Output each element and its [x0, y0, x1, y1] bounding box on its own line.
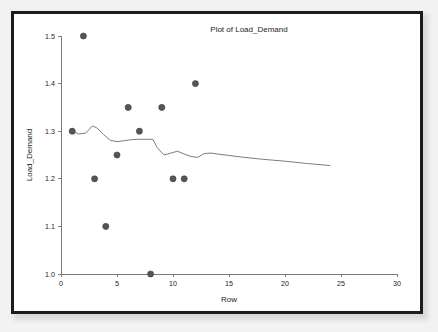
- data-point-marker: [103, 223, 109, 229]
- x-tick-label: 15: [225, 279, 233, 288]
- y-tick-label: 1.2: [45, 174, 55, 183]
- data-point-marker: [136, 128, 142, 134]
- x-axis-title: Row: [221, 295, 237, 304]
- x-axis-title-group: Row: [221, 295, 237, 304]
- page-root: Plot of Load_Demand 1.01.11.21.31.41.5 0…: [0, 0, 438, 332]
- x-tick-label: 5: [115, 279, 119, 288]
- data-point-marker: [148, 271, 154, 277]
- chart-frame: Plot of Load_Demand 1.01.11.21.31.41.5 0…: [11, 11, 423, 314]
- x-tick-group: 051015202530: [59, 274, 401, 288]
- data-point-marker: [125, 104, 131, 110]
- x-tick-label: 10: [169, 279, 177, 288]
- axes-group: [61, 36, 397, 274]
- chart-title-group: Plot of Load_Demand: [210, 25, 287, 34]
- y-tick-label: 1.4: [45, 79, 55, 88]
- data-point-marker: [192, 81, 198, 87]
- x-tick-label: 30: [393, 279, 401, 288]
- y-tick-label: 1.1: [45, 222, 55, 231]
- y-axis-title: Load_Demand: [25, 129, 34, 181]
- trend-line: [72, 126, 330, 166]
- trend-line-group: [72, 126, 330, 166]
- data-point-marker: [181, 176, 187, 182]
- chart-title: Plot of Load_Demand: [210, 25, 287, 34]
- plot-figure: Plot of Load_Demand 1.01.11.21.31.41.5 0…: [14, 14, 420, 311]
- chart-canvas: Plot of Load_Demand 1.01.11.21.31.41.5 0…: [14, 14, 420, 311]
- x-tick-label: 20: [281, 279, 289, 288]
- data-point-marker: [114, 152, 120, 158]
- data-point-marker: [92, 176, 98, 182]
- y-tick-label: 1.5: [45, 32, 55, 41]
- y-tick-group: 1.01.11.21.31.41.5: [45, 32, 61, 279]
- scatter-markers-group: [69, 33, 198, 277]
- data-point-marker: [170, 176, 176, 182]
- data-point-marker: [69, 128, 75, 134]
- x-tick-label: 0: [59, 279, 63, 288]
- y-axis-title-group: Load_Demand: [25, 129, 34, 181]
- y-tick-label: 1.0: [45, 270, 55, 279]
- y-tick-label: 1.3: [45, 127, 55, 136]
- data-point-marker: [80, 33, 86, 39]
- data-point-marker: [159, 104, 165, 110]
- x-tick-label: 25: [337, 279, 345, 288]
